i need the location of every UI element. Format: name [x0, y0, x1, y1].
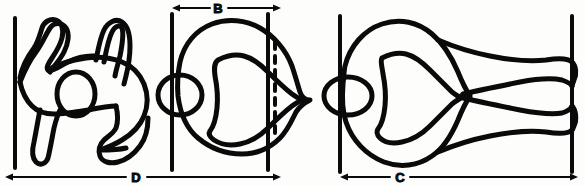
dimension-c-label: C — [395, 170, 405, 185]
dorsal-appendage-junction — [461, 94, 470, 98]
lateral-posterior-closure — [100, 148, 126, 150]
dimension-b-label: B — [213, 1, 222, 16]
dimension-d-label: D — [131, 170, 140, 185]
figure-container: B D C — [0, 0, 585, 186]
technical-line-drawing: B D C — [0, 0, 585, 186]
